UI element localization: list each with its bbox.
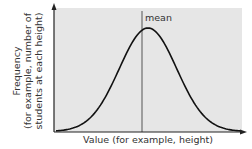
y-axis-arrow-icon <box>52 3 57 10</box>
y-axis-label: Frequency (for example, number of studen… <box>2 10 52 132</box>
plot-area <box>54 8 242 132</box>
x-axis-label: Value (for example, height) <box>54 134 242 145</box>
mean-annotation: mean <box>145 12 172 23</box>
normal-distribution-diagram: Frequency (for example, number of studen… <box>0 0 252 149</box>
y-axis-label-line2: (for example, number of <box>22 13 33 130</box>
y-axis-label-line1: Frequency <box>11 13 22 130</box>
y-axis-label-line3: students at each height) <box>33 13 44 130</box>
